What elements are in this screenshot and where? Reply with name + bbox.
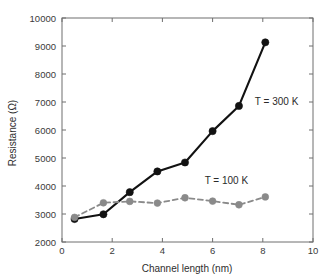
data-point — [236, 201, 243, 208]
y-tick-label-3: 5000 — [35, 153, 56, 164]
y-tick-label-8: 10000 — [30, 13, 56, 24]
data-point — [100, 211, 107, 218]
x-tick-label-3: 6 — [210, 245, 215, 256]
y-tick-label-1: 3000 — [35, 209, 56, 220]
data-point — [126, 189, 133, 196]
chart-figure: 0246810 20003000400050006000700080009000… — [0, 0, 330, 279]
y-tick-label-5: 7000 — [35, 97, 56, 108]
data-point — [209, 128, 216, 135]
data-point — [209, 198, 216, 205]
y-tick-label-0: 2000 — [35, 237, 56, 248]
data-point — [71, 214, 78, 221]
resistance-vs-channel-length-chart: 0246810 20003000400050006000700080009000… — [0, 0, 330, 279]
y-tick-label-2: 4000 — [35, 181, 56, 192]
x-tick-label-1: 2 — [110, 245, 115, 256]
data-point — [181, 159, 188, 166]
data-point — [262, 39, 269, 46]
data-point — [154, 168, 161, 175]
annotation-100k: T = 100 K — [205, 175, 249, 186]
x-tick-label-5: 10 — [308, 245, 319, 256]
data-point — [126, 198, 133, 205]
x-tick-label-0: 0 — [59, 245, 64, 256]
data-point — [262, 194, 269, 201]
data-point — [235, 102, 242, 109]
y-tick-label-4: 6000 — [35, 125, 56, 136]
y-tick-label-7: 9000 — [35, 41, 56, 52]
y-tick-label-6: 8000 — [35, 69, 56, 80]
data-point — [100, 199, 107, 206]
x-axis-title: Channel length (nm) — [142, 263, 233, 274]
y-axis-title: Resistance (Ω) — [7, 100, 18, 166]
data-point — [182, 194, 189, 201]
data-point — [154, 200, 161, 207]
annotation-300k: T = 300 K — [255, 96, 299, 107]
x-tick-label-2: 4 — [160, 245, 165, 256]
x-tick-label-4: 8 — [260, 245, 265, 256]
